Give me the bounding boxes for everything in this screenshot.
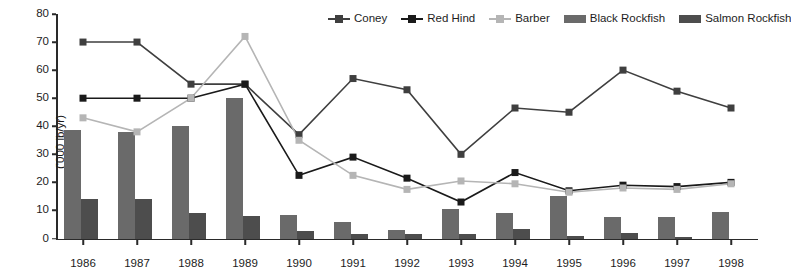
x-tick-label: 1992 xyxy=(394,258,420,270)
marker-barber-1991 xyxy=(350,172,357,179)
x-tick-mark xyxy=(136,240,138,245)
x-tick-label: 1993 xyxy=(448,258,474,270)
y-tick-label: 80 xyxy=(33,8,49,20)
plot-area: ('000 lb/yr) 01020304050607080 198619871… xyxy=(56,14,758,240)
marker-red-hind-1987 xyxy=(134,95,141,102)
line-series-group xyxy=(56,14,758,240)
x-tick-mark xyxy=(190,240,192,245)
marker-red-hind-1992 xyxy=(404,175,411,182)
x-tick-mark xyxy=(298,240,300,245)
marker-barber-1989 xyxy=(242,33,249,40)
marker-coney-1988 xyxy=(188,81,195,88)
marker-barber-1996 xyxy=(620,184,627,191)
marker-coney-1997 xyxy=(674,88,681,95)
y-tick-label: 40 xyxy=(33,121,49,133)
marker-red-hind-1994 xyxy=(512,169,519,176)
x-tick-label: 1994 xyxy=(502,258,528,270)
x-tick-label: 1998 xyxy=(718,258,744,270)
marker-barber-1995 xyxy=(566,189,573,196)
y-tick-label: 70 xyxy=(33,36,49,48)
marker-red-hind-1989 xyxy=(242,81,249,88)
y-tick: 10 xyxy=(33,205,56,217)
x-tick-mark xyxy=(244,240,246,245)
y-tick: 20 xyxy=(33,177,56,189)
marker-barber-1986 xyxy=(80,114,87,121)
marker-coney-1993 xyxy=(458,151,465,158)
marker-coney-1991 xyxy=(350,75,357,82)
marker-red-hind-1991 xyxy=(350,154,357,161)
y-tick-label: 50 xyxy=(33,92,49,104)
y-tick: 60 xyxy=(33,64,56,76)
marker-coney-1996 xyxy=(620,67,627,74)
x-tick-mark xyxy=(730,240,732,245)
x-tick-mark xyxy=(514,240,516,245)
marker-barber-1994 xyxy=(512,180,519,187)
x-tick-label: 1986 xyxy=(70,258,96,270)
y-tick-label: 0 xyxy=(33,233,49,245)
marker-barber-1993 xyxy=(458,177,465,184)
marker-barber-1992 xyxy=(404,186,411,193)
line-red-hind xyxy=(83,84,731,202)
x-tick-label: 1987 xyxy=(124,258,150,270)
marker-barber-1998 xyxy=(728,180,735,187)
x-tick-mark xyxy=(406,240,408,245)
x-tick-mark xyxy=(622,240,624,245)
y-tick-label: 60 xyxy=(33,64,49,76)
x-tick-label: 1995 xyxy=(556,258,582,270)
marker-coney-1986 xyxy=(80,39,87,46)
marker-red-hind-1986 xyxy=(80,95,87,102)
line-barber xyxy=(83,36,731,192)
marker-barber-1997 xyxy=(674,186,681,193)
x-tick-mark xyxy=(676,240,678,245)
x-tick-label: 1991 xyxy=(340,258,366,270)
marker-red-hind-1993 xyxy=(458,199,465,206)
y-tick: 80 xyxy=(33,8,56,20)
x-tick-label: 1989 xyxy=(232,258,258,270)
marker-red-hind-1990 xyxy=(296,172,303,179)
y-tick-label: 10 xyxy=(33,205,49,217)
x-tick-label: 1997 xyxy=(664,258,690,270)
x-tick-label: 1990 xyxy=(286,258,312,270)
marker-coney-1995 xyxy=(566,109,573,116)
y-tick: 50 xyxy=(33,92,56,104)
y-tick-label: 20 xyxy=(33,177,49,189)
marker-coney-1994 xyxy=(512,105,519,112)
x-tick-mark xyxy=(352,240,354,245)
marker-coney-1987 xyxy=(134,39,141,46)
y-tick-label: 30 xyxy=(33,149,49,161)
marker-barber-1990 xyxy=(296,137,303,144)
x-tick-mark xyxy=(82,240,84,245)
y-tick: 70 xyxy=(33,36,56,48)
y-tick: 40 xyxy=(33,121,56,133)
x-tick-label: 1996 xyxy=(610,258,636,270)
x-tick-mark xyxy=(568,240,570,245)
x-tick-label: 1988 xyxy=(178,258,204,270)
y-tick: 0 xyxy=(33,233,56,245)
marker-coney-1998 xyxy=(728,105,735,112)
marker-coney-1992 xyxy=(404,86,411,93)
marker-barber-1987 xyxy=(134,128,141,135)
y-tick: 30 xyxy=(33,149,56,161)
x-tick-mark xyxy=(460,240,462,245)
marker-barber-1988 xyxy=(188,95,195,102)
